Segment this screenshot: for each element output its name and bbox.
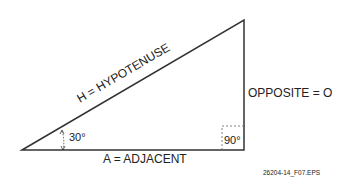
adjacent-label: A = ADJACENT	[103, 152, 187, 166]
right-angle-label: 90°	[224, 134, 241, 146]
hypotenuse-label: H = HYPOTENUSE	[74, 40, 172, 105]
opposite-label: OPPOSITE = O	[248, 86, 332, 100]
triangle-diagram: H = HYPOTENUSE OPPOSITE = O A = ADJACENT…	[0, 0, 340, 179]
figure-id: 26204-14_F07.EPS	[263, 169, 321, 177]
angle-label: 30°	[69, 131, 86, 143]
triangle-outline	[22, 20, 244, 150]
